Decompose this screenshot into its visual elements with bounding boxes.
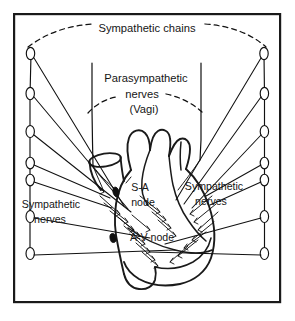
label-parasympathetic-line2: nerves	[125, 88, 159, 100]
ganglion	[26, 248, 34, 260]
diagram-canvas: Sympathetic chains Parasympathetic nerve…	[0, 0, 295, 321]
label-sa-node-line1: S-A	[131, 181, 150, 193]
anatomical-diagram: Sympathetic chains Parasympathetic nerve…	[0, 0, 295, 321]
ganglion	[26, 174, 34, 186]
label-parasympathetic-line3: (Vagi)	[129, 103, 158, 115]
ganglion	[260, 174, 268, 186]
label-sympathetic-nerves-right-line2: nerves	[195, 195, 227, 207]
ganglion	[26, 87, 34, 99]
ganglion	[260, 157, 268, 169]
label-sympathetic-nerves-left-line2: nerves	[34, 213, 66, 225]
ganglion	[260, 211, 268, 223]
ganglion	[260, 248, 268, 260]
ganglion	[260, 87, 268, 99]
label-av-node: A-V node	[130, 231, 174, 243]
ganglion	[26, 157, 34, 169]
ganglion	[26, 47, 34, 59]
ganglion	[260, 126, 268, 138]
label-sympathetic-chains: Sympathetic chains	[98, 22, 195, 34]
label-sympathetic-nerves-left-line1: Sympathetic	[22, 198, 81, 210]
label-sympathetic-nerves-right-line1: Sympathetic	[185, 180, 244, 192]
ganglion	[26, 126, 34, 138]
label-parasympathetic-line1: Parasympathetic	[104, 72, 188, 84]
label-sa-node-line2: node	[131, 196, 155, 208]
